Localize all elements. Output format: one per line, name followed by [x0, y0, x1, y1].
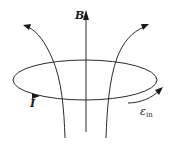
left-field-arrowhead-icon [23, 24, 31, 30]
induced-emf-label: εin [140, 106, 153, 119]
current-label: I [30, 98, 35, 109]
induction-diagram: B I εin [0, 0, 169, 145]
right-field-arrowhead-icon [141, 24, 149, 30]
diagram-drawing [0, 0, 169, 145]
right-field-line [106, 27, 144, 138]
magnetic-field-label: B [75, 10, 84, 21]
left-field-line [28, 27, 65, 138]
emf-subscript: in [146, 111, 153, 119]
